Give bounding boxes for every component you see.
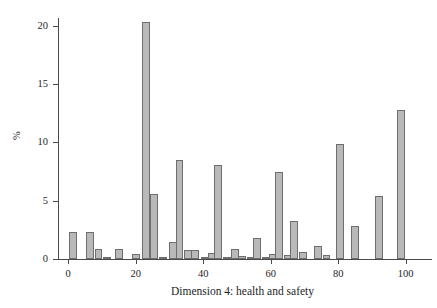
x-tick-mark — [338, 259, 339, 264]
histogram-bar — [142, 22, 150, 259]
x-tick-mark — [203, 259, 204, 264]
histogram-bar — [290, 221, 298, 260]
histogram-bar — [375, 196, 383, 259]
y-axis-title: % — [11, 131, 22, 140]
y-tick-mark — [53, 142, 59, 143]
plot-area — [58, 14, 426, 259]
y-axis-spine — [58, 18, 59, 259]
histogram-bar — [351, 226, 359, 259]
x-tick-label: 80 — [323, 268, 353, 279]
histogram-bar — [176, 160, 184, 259]
histogram-bar — [86, 232, 94, 259]
histogram-bar — [150, 194, 158, 259]
y-tick-mark — [53, 26, 59, 27]
y-tick-mark — [53, 201, 59, 202]
x-tick-mark — [271, 259, 272, 264]
y-tick-mark — [53, 259, 59, 260]
x-axis-spine — [58, 259, 432, 260]
histogram-bar — [314, 246, 322, 259]
x-axis-title: Dimension 4: health and safety — [0, 285, 437, 298]
y-tick-mark — [53, 84, 59, 85]
x-tick-label: 40 — [188, 268, 218, 279]
y-tick-label: 20 — [38, 21, 49, 32]
x-tick-label: 20 — [121, 268, 151, 279]
y-tick-label: 10 — [38, 137, 49, 148]
histogram-bar — [397, 110, 405, 259]
histogram-bar — [214, 165, 222, 260]
x-tick-mark — [406, 259, 407, 264]
histogram-bar — [253, 238, 261, 259]
y-tick-label: 0 — [43, 254, 48, 265]
histogram-bar — [115, 249, 123, 259]
histogram-bar — [95, 249, 103, 260]
histogram-bar — [299, 252, 307, 259]
histogram-bar — [275, 172, 283, 260]
x-tick-mark — [68, 259, 69, 264]
x-tick-label: 0 — [53, 268, 83, 279]
y-tick-label: 5 — [43, 196, 48, 207]
histogram-bar — [191, 250, 199, 259]
x-tick-mark — [136, 259, 137, 264]
histogram-bar — [336, 144, 344, 260]
histogram-bar — [69, 232, 77, 259]
histogram-figure: 05101520 020406080100 % Dimension 4: hea… — [0, 0, 437, 308]
x-tick-label: 60 — [256, 268, 286, 279]
x-tick-label: 100 — [391, 268, 421, 279]
y-tick-label: 15 — [38, 79, 49, 90]
